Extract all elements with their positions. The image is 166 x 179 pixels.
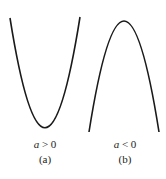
panel-a-caption: (a) <box>39 153 51 165</box>
panel-a-condition: a > 0 <box>34 138 57 150</box>
parabola-figure <box>0 0 166 179</box>
parabola-a-curve <box>10 17 80 128</box>
parabola-b-curve <box>89 21 159 132</box>
panel-b-caption: (b) <box>119 153 132 165</box>
panel-b-condition: a < 0 <box>114 138 137 150</box>
